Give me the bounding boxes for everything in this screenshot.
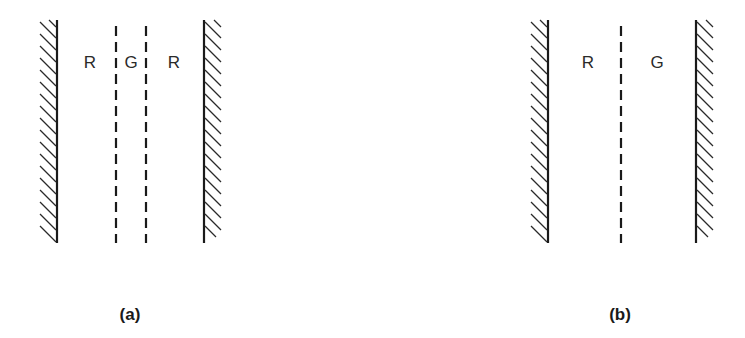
region-label-r: R [582, 53, 594, 72]
caption-a: (a) [120, 305, 141, 324]
right-wall-hatch-a [204, 20, 221, 243]
panel-a: R G R (a) [40, 20, 221, 324]
panel-b: R G (b) [531, 20, 713, 324]
left-wall-hatch-b [531, 20, 548, 243]
diagram-canvas: R G R (a) [0, 0, 745, 338]
region-label-r-left: R [84, 53, 96, 72]
caption-b: (b) [609, 305, 631, 324]
left-wall-hatch-a [40, 20, 57, 243]
region-label-g: G [650, 53, 663, 72]
right-wall-hatch-b [696, 20, 713, 243]
region-label-r-right: R [168, 53, 180, 72]
region-label-g: G [124, 53, 137, 72]
